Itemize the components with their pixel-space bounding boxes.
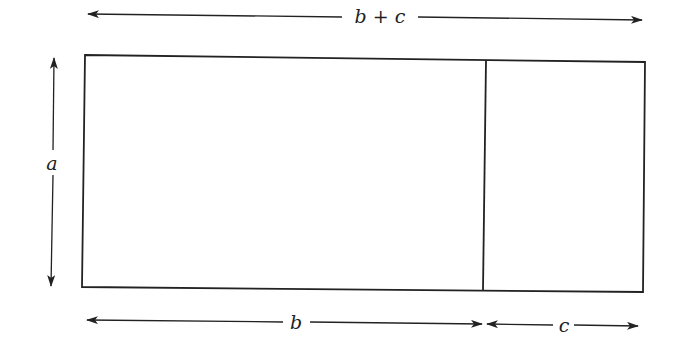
arrow-right-icon [574, 325, 638, 326]
left-width-dimension: b [87, 311, 482, 333]
arrow-right-icon [310, 322, 482, 324]
outer-rectangle [82, 55, 645, 292]
arrow-up-icon [53, 58, 54, 150]
arrow-left-icon [487, 324, 553, 325]
height-label: a [46, 152, 57, 174]
arrow-left-icon [87, 320, 283, 322]
right-width-label: c [559, 314, 570, 336]
arrow-left-icon [88, 14, 342, 17]
rectangle [82, 55, 645, 292]
area-diagram: b + c a b c [0, 0, 676, 352]
divider-line [483, 60, 486, 290]
right-width-dimension: c [487, 314, 638, 336]
total-width-dimension: b + c [88, 5, 642, 27]
arrow-down-icon [51, 175, 53, 286]
left-width-label: b [290, 311, 302, 333]
total-width-label: b + c [355, 5, 406, 27]
arrow-right-icon [418, 17, 642, 20]
height-dimension: a [46, 58, 57, 286]
